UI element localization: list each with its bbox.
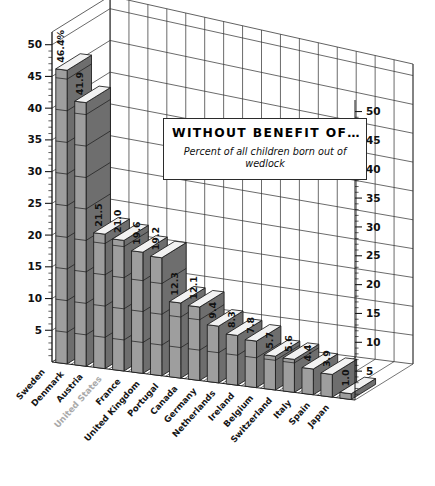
chart-title: WITHOUT BENEFIT OF… <box>172 127 358 141</box>
bar-value-label: 12.1 <box>188 276 199 299</box>
bar-value-label: 5.6 <box>283 335 294 352</box>
chart-container: 5101520253035404550 5101520253035404550 … <box>0 0 435 486</box>
bar-value-label: 21.0 <box>112 209 123 233</box>
left-axis-tick-label: 25 <box>27 197 42 209</box>
right-axis-tick-label: 35 <box>366 192 381 204</box>
left-axis-tick-label: 15 <box>27 260 42 272</box>
bar-value-label: 5.7 <box>264 332 275 349</box>
right-axis-tick-label: 40 <box>366 163 381 175</box>
left-axis-tick-label: 20 <box>27 229 42 241</box>
right-axis-tick-label: 15 <box>366 307 381 319</box>
bar-value-label: 12.3 <box>169 272 180 295</box>
right-axis-tick-label: 50 <box>366 105 381 117</box>
chart-title-box: WITHOUT BENEFIT OF… Percent of all child… <box>163 118 367 180</box>
bar-value-label: 21.5 <box>93 203 104 226</box>
left-axis-tick-label: 50 <box>27 38 42 50</box>
right-axis-tick-label: 10 <box>366 336 381 348</box>
bar-value-label: 7.8 <box>245 316 256 333</box>
bar-value-label: 46.4% <box>55 29 66 62</box>
left-axis-tick-label: 10 <box>27 292 42 304</box>
left-value-axis: 5101520253035404550 <box>27 32 52 362</box>
bar-value-label: 41.9 <box>74 72 85 95</box>
bar-value-label: 4.4 <box>302 344 313 361</box>
bar-chart-3d: 5101520253035404550 5101520253035404550 … <box>0 0 435 486</box>
right-axis-tick-label: 45 <box>366 134 381 146</box>
right-axis-tick-label: 30 <box>366 221 381 233</box>
right-axis-tick-label: 20 <box>366 278 381 290</box>
bar-value-label: 19.2 <box>150 227 161 250</box>
left-axis-tick-label: 30 <box>27 165 42 177</box>
left-axis-tick-label: 45 <box>27 70 42 82</box>
left-axis-tick-label: 40 <box>27 102 42 114</box>
bar-value-label: 1.0 <box>340 369 351 386</box>
right-axis-tick-label: 5 <box>366 365 373 377</box>
right-axis-tick-label: 25 <box>366 249 381 261</box>
bar-value-label: 9.4 <box>207 301 218 318</box>
bar-value-label: 19.6 <box>131 221 142 245</box>
left-axis-tick-label: 5 <box>35 324 42 336</box>
bar-value-label: 8.3 <box>226 311 237 328</box>
left-axis-tick-label: 35 <box>27 133 42 145</box>
bar-value-label: 3.9 <box>321 350 332 367</box>
chart-subtitle: Percent of all children born out of wedl… <box>172 146 358 171</box>
